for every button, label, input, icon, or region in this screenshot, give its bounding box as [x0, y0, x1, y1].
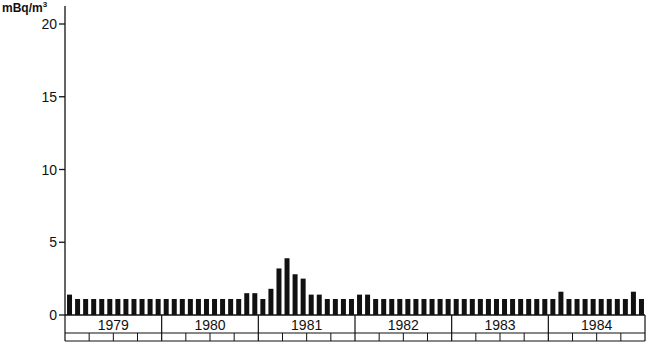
bar — [405, 299, 410, 315]
bar — [583, 299, 588, 315]
bar — [204, 299, 209, 315]
y-tick-label: 10 — [41, 162, 57, 178]
bar — [212, 299, 217, 315]
bar — [172, 299, 177, 315]
bar-chart: 05101520 197919801981198219831984 — [0, 0, 654, 351]
bar — [99, 299, 104, 315]
bar — [188, 299, 193, 315]
y-tick-label: 20 — [41, 16, 57, 32]
bar — [276, 268, 281, 315]
bar — [373, 299, 378, 315]
bar — [148, 299, 153, 315]
bar — [389, 299, 394, 315]
bar — [220, 299, 225, 315]
bar — [550, 299, 555, 315]
bar — [526, 299, 531, 315]
bar — [156, 299, 161, 315]
bar — [639, 299, 644, 315]
bar — [131, 299, 136, 315]
bar — [140, 299, 145, 315]
bar — [558, 292, 563, 315]
bar — [67, 295, 72, 315]
y-tick-label: 5 — [49, 234, 57, 250]
bar — [285, 258, 290, 315]
bars — [67, 258, 644, 315]
year-label: 1979 — [98, 317, 129, 333]
bar — [196, 299, 201, 315]
year-label: 1982 — [388, 317, 419, 333]
bar — [349, 299, 354, 315]
bar — [115, 299, 120, 315]
bar — [381, 299, 386, 315]
bar — [462, 299, 467, 315]
bar — [309, 295, 314, 315]
bar — [518, 299, 523, 315]
bar — [454, 299, 459, 315]
bar — [236, 299, 241, 315]
y-tick-label: 15 — [41, 89, 57, 105]
bar — [486, 299, 491, 315]
bar — [293, 274, 298, 315]
bar — [123, 299, 128, 315]
bar — [534, 299, 539, 315]
bar — [83, 299, 88, 315]
bar — [591, 299, 596, 315]
bar — [228, 299, 233, 315]
bar — [180, 299, 185, 315]
year-label: 1981 — [291, 317, 322, 333]
bar — [341, 299, 346, 315]
bar — [413, 299, 418, 315]
bar — [631, 292, 636, 315]
bar — [494, 299, 499, 315]
bar — [446, 299, 451, 315]
y-axis: 05101520 — [41, 6, 65, 323]
bar — [510, 299, 515, 315]
bar — [252, 293, 257, 315]
bar — [421, 299, 426, 315]
bar — [502, 299, 507, 315]
year-label: 1983 — [484, 317, 515, 333]
bar — [333, 299, 338, 315]
bar — [599, 299, 604, 315]
bar — [317, 295, 322, 315]
bar — [430, 299, 435, 315]
bar — [301, 279, 306, 315]
bar — [607, 299, 612, 315]
x-axis-year-boxes: 197919801981198219831984 — [65, 315, 645, 341]
bar — [470, 299, 475, 315]
bar — [75, 299, 80, 315]
bar — [244, 293, 249, 315]
bar — [566, 299, 571, 315]
bar — [615, 299, 620, 315]
bar — [268, 289, 273, 315]
bar — [325, 299, 330, 315]
bar — [575, 299, 580, 315]
y-tick-label: 0 — [49, 307, 57, 323]
bar — [365, 295, 370, 315]
year-label: 1980 — [194, 317, 225, 333]
bar — [91, 299, 96, 315]
bar — [438, 299, 443, 315]
bar — [478, 299, 483, 315]
bar — [164, 299, 169, 315]
bar — [107, 299, 112, 315]
bar — [260, 299, 265, 315]
bar — [357, 295, 362, 315]
bar — [542, 299, 547, 315]
bar — [623, 299, 628, 315]
year-label: 1984 — [581, 317, 612, 333]
bar — [397, 299, 402, 315]
